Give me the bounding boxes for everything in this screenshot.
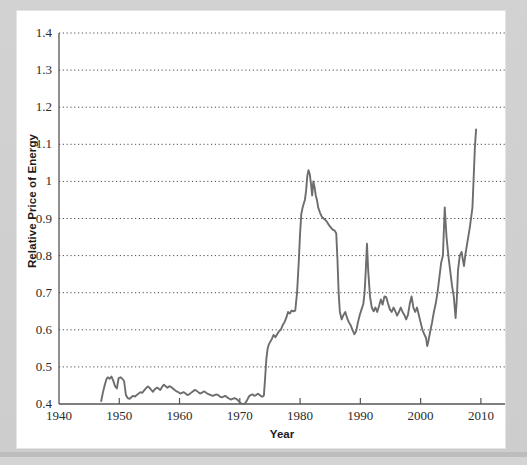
ytick-label: 1.2 [18, 100, 52, 113]
ytick-label: 1.4 [18, 26, 52, 39]
xtick-marks-group [119, 398, 481, 404]
energy-price-line [101, 129, 476, 404]
ytick-label: 1.3 [18, 63, 52, 76]
xtick-label: 1970 [212, 409, 268, 422]
xtick-label: 1950 [91, 409, 147, 422]
gridlines-group [59, 33, 505, 367]
y-axis-title: Relative Price of Energy [26, 121, 38, 281]
x-axis-title: Year [59, 428, 505, 440]
xtick-label: 1940 [31, 409, 87, 422]
ytick-label: 0.6 [18, 323, 52, 336]
figure-background: 1.41.31.21.110.90.80.70.60.50.4 19401950… [0, 0, 527, 465]
chart-plot-svg [0, 0, 527, 465]
xtick-label: 1960 [152, 409, 208, 422]
xtick-label: 2010 [453, 409, 509, 422]
chart-figure: 1.41.31.21.110.90.80.70.60.50.4 19401950… [0, 0, 527, 465]
xtick-label: 2000 [393, 409, 449, 422]
xtick-label: 1980 [272, 409, 328, 422]
ytick-label: 0.7 [18, 286, 52, 299]
ytick-label: 0.5 [18, 360, 52, 373]
xtick-label: 1990 [332, 409, 388, 422]
axis-lines-group [59, 33, 505, 404]
